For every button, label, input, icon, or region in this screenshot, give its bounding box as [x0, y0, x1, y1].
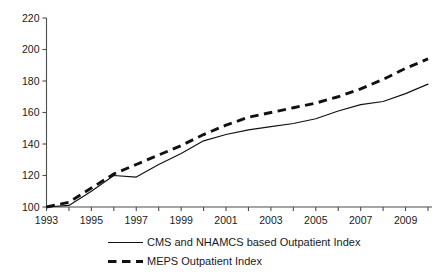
chart-legend: CMS and NHAMCS based Outpatient IndexMEP… — [108, 236, 361, 267]
series-line-cms-nhamcs — [47, 84, 429, 207]
line-chart: 100120140160180200220 199319951997199920… — [0, 0, 445, 280]
y-axis-tick-label: 120 — [22, 169, 40, 181]
y-axis-tick-label: 200 — [22, 43, 40, 55]
legend-label: CMS and NHAMCS based Outpatient Index — [147, 236, 361, 248]
x-axis-tick-label: 1995 — [80, 214, 104, 226]
chart-figure: 100120140160180200220 199319951997199920… — [0, 0, 445, 280]
x-axis-tick-label: 2001 — [214, 214, 238, 226]
series-line-meps — [47, 59, 429, 207]
y-axis-tick-label: 180 — [22, 75, 40, 87]
x-axis-tick-label: 2009 — [394, 214, 418, 226]
y-axis-tick-label: 220 — [22, 12, 40, 24]
y-axis-tick-label: 100 — [22, 201, 40, 213]
y-axis-tick-group: 100120140160180200220 — [22, 12, 47, 213]
y-axis-tick-label: 160 — [22, 106, 40, 118]
x-axis-tick-label: 1999 — [169, 214, 193, 226]
x-axis-tick-label: 1997 — [125, 214, 149, 226]
y-axis-tick-label: 140 — [22, 138, 40, 150]
x-axis-tick-group: 199319951997199920012003200520072009 — [35, 207, 428, 226]
x-axis-tick-label: 2007 — [349, 214, 373, 226]
x-axis-tick-label: 2003 — [259, 214, 283, 226]
x-axis-tick-label: 2005 — [304, 214, 328, 226]
legend-label: MEPS Outpatient Index — [147, 255, 262, 267]
x-axis-tick-label: 1993 — [35, 214, 59, 226]
